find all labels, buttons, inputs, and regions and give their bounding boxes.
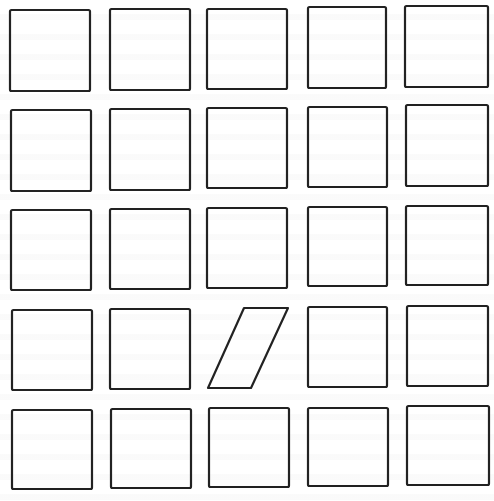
figure-canvas (0, 0, 494, 501)
parallelogram-r4-c3 (208, 308, 288, 388)
square-r2-c2 (110, 109, 190, 190)
square-r2-c3 (207, 108, 287, 188)
square-r3-c5 (406, 206, 488, 285)
square-r4-c5 (407, 306, 488, 386)
square-r4-c4 (308, 307, 387, 387)
square-r3-c3 (207, 208, 287, 288)
square-r4-c1 (12, 310, 92, 390)
square-r3-c4 (308, 207, 387, 286)
square-r4-c2 (110, 309, 190, 389)
square-r5-c2 (111, 409, 191, 488)
square-r1-c1 (10, 10, 90, 91)
square-r5-c3 (209, 408, 289, 487)
square-r1-c4 (308, 7, 386, 88)
square-r1-c5 (405, 6, 488, 87)
square-r1-c3 (207, 9, 287, 89)
square-r1-c2 (110, 9, 190, 90)
square-r3-c2 (110, 209, 190, 289)
square-r2-c5 (406, 105, 488, 186)
square-r5-c5 (407, 406, 489, 485)
square-r2-c1 (11, 110, 91, 191)
shape-grid (0, 0, 494, 501)
square-r5-c4 (308, 408, 388, 486)
square-r3-c1 (11, 210, 91, 290)
square-r2-c4 (308, 107, 387, 187)
square-r5-c1 (12, 410, 92, 489)
